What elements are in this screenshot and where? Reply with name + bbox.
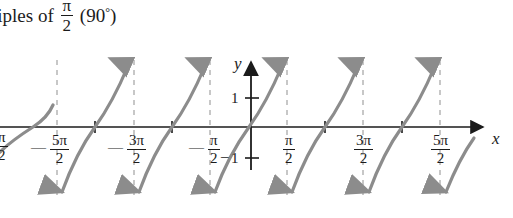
tangent-branch [292, 66, 358, 192]
x-tick-denominator: 2 [0, 148, 8, 163]
x-tick-numerator: π [0, 130, 8, 145]
x-tick-label-neg-3pi-2: — 3π 2 [108, 133, 148, 167]
x-tick-fraction: 3π 2 [127, 133, 146, 167]
x-tick-denominator: 2 [127, 151, 146, 166]
x-tick-numerator: 3π [127, 133, 146, 148]
x-tick-denominator: 2 [50, 151, 69, 166]
x-tick-label-neg-5pi-2: — 5π 2 [31, 133, 71, 167]
x-axis-label: x [492, 130, 500, 147]
tangent-graph-figure: tiples of π 2 (90°) [0, 0, 513, 218]
y-tick-label-one: 1 [231, 91, 239, 106]
x-tick-label-neg-pi-2: — π 2 [189, 133, 222, 167]
x-tick-fraction: 5π 2 [50, 133, 69, 167]
x-tick-label-5pi-2: 5π 2 [429, 133, 452, 167]
x-tick-denominator: 2 [354, 151, 373, 166]
x-tick-fraction: 5π 2 [431, 133, 450, 167]
y-axis-label: y [234, 55, 242, 72]
tangent-branch [139, 66, 205, 192]
x-tick-denominator: 2 [208, 151, 220, 166]
y-tick-neg-one-minus-sign-icon: – [221, 149, 229, 164]
x-tick-numerator: π [208, 133, 220, 148]
x-tick-label-pi-2: π 2 [281, 133, 297, 167]
x-tick-numerator: 5π [431, 133, 450, 148]
x-tick-fraction: 3π 2 [354, 133, 373, 167]
tangent-curves [0, 66, 474, 192]
x-tick-label-3pi-2: 3π 2 [352, 133, 375, 167]
x-tick-numerator: 3π [354, 133, 373, 148]
tangent-branch [215, 66, 282, 192]
x-tick-numerator: π [283, 133, 295, 148]
tangent-branch [369, 66, 435, 192]
plot-svg [0, 0, 513, 218]
tangent-branch [62, 66, 128, 192]
minus-sign-icon: — [189, 140, 204, 155]
x-tick-fraction: π 2 [0, 130, 8, 164]
y-tick-label-neg-one: 1 [231, 151, 239, 166]
x-tick-fraction: π 2 [283, 133, 295, 167]
x-tick-label-clipped: π 2 [0, 130, 10, 164]
x-tick-fraction: π 2 [208, 133, 220, 167]
x-tick-denominator: 2 [431, 151, 450, 166]
minus-sign-icon: — [31, 140, 46, 155]
x-tick-numerator: 5π [50, 133, 69, 148]
x-tick-denominator: 2 [283, 151, 295, 166]
minus-sign-icon: — [108, 140, 123, 155]
